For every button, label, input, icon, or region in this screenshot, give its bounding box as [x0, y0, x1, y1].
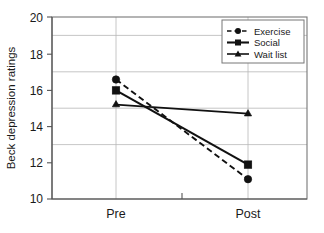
chart-container: 10 12 14 16 18 20 Beck depression rating…	[0, 0, 324, 233]
y-tick-label-16: 16	[30, 84, 44, 98]
legend-label-wait-list: Wait list	[254, 49, 287, 60]
y-axis	[47, 17, 52, 199]
y-tick-label-20: 20	[30, 11, 44, 25]
legend-marker-circle-icon	[235, 28, 241, 34]
y-tick-label-10: 10	[30, 192, 44, 206]
legend-label-social: Social	[254, 37, 280, 48]
legend-label-exercise: Exercise	[254, 26, 290, 37]
y-tick-label-12: 12	[30, 156, 44, 170]
y-axis-title: Beck depression ratings	[5, 46, 17, 169]
x-category-label-post: Post	[235, 207, 261, 221]
marker-exercise-post	[244, 176, 251, 183]
x-category-label-pre: Pre	[106, 207, 126, 221]
y-tick-label-14: 14	[30, 120, 44, 134]
marker-exercise-pre	[112, 76, 119, 83]
marker-social-pre	[112, 87, 119, 94]
chart-legend: Exercise Social Wait list	[222, 20, 304, 63]
y-tick-label-18: 18	[30, 48, 44, 62]
marker-social-post	[244, 161, 251, 168]
legend-marker-square-icon	[235, 40, 241, 46]
line-chart: 10 12 14 16 18 20 Beck depression rating…	[0, 0, 324, 233]
